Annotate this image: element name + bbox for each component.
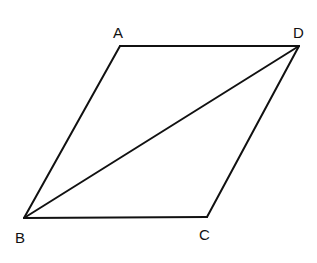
edge-cb: [24, 217, 207, 218]
vertex-label-c: C: [199, 226, 210, 243]
vertex-label-a: A: [113, 24, 123, 41]
vertex-label-d: D: [293, 24, 304, 41]
vertex-label-b: B: [15, 229, 25, 246]
edge-dc: [207, 46, 299, 217]
diagonal-bd: [24, 46, 299, 218]
edge-ba: [24, 46, 120, 218]
parallelogram-diagram: A D B C: [0, 0, 317, 263]
